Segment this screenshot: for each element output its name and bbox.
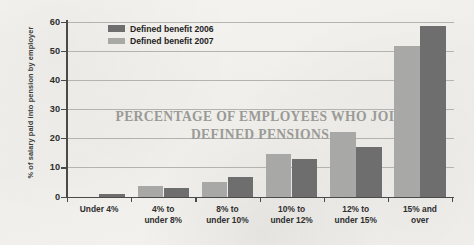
bar — [394, 46, 420, 196]
bar — [164, 188, 190, 197]
bar — [266, 154, 292, 196]
y-axis-tick-mark — [61, 138, 67, 139]
y-axis-tick-labels: 6050403020100 — [38, 0, 60, 245]
category-label-line-1: 12% to — [342, 204, 369, 214]
y-axis-tick-mark — [61, 197, 67, 198]
bar — [420, 26, 446, 197]
y-axis-tick-label: 30 — [38, 104, 60, 114]
legend-item-label: Defined benefit 2006 — [130, 24, 214, 34]
y-axis-tick-label: 40 — [38, 75, 60, 85]
category-label-line-2: under 15% — [324, 215, 388, 226]
x-axis-category-label: 15% andover — [388, 204, 452, 225]
legend-item-label: Defined benefit 2007 — [130, 36, 214, 46]
legend-item: Defined benefit 2006 — [108, 23, 214, 34]
x-axis-tick-mark — [131, 197, 132, 202]
category-label-line-2: under 10% — [195, 215, 259, 226]
y-axis-tick-label: 0 — [38, 192, 60, 202]
bar — [330, 132, 356, 196]
x-axis-tick-mark — [260, 197, 261, 202]
category-label-line-2: under 8% — [131, 215, 195, 226]
x-axis-category-label: 8% tounder 10% — [195, 204, 259, 225]
category-label-line-1: Under 4% — [80, 204, 119, 214]
category-label-line-1: 15% and — [403, 204, 437, 214]
category-label-line-2: under 12% — [260, 215, 324, 226]
category-label-line-2: over — [388, 215, 452, 226]
y-axis-title: % of salary paid into pension by employe… — [26, 3, 35, 203]
y-axis-tick-label: 20 — [38, 133, 60, 143]
bar — [202, 182, 228, 197]
category-label-line-1: 4% to — [152, 204, 174, 214]
x-axis-category-label: Under 4% — [67, 204, 131, 215]
y-axis-tick-mark — [61, 51, 67, 52]
bar — [356, 147, 382, 197]
category-label-line-1: 8% to — [216, 204, 238, 214]
x-axis-tick-mark — [324, 197, 325, 202]
x-axis-category-label: 10% tounder 12% — [260, 204, 324, 225]
x-axis-tick-mark — [388, 197, 389, 202]
legend-color-swatch — [108, 25, 125, 32]
plot-area: PERCENTAGE OF EMPLOYEES WHO JOIN DEFINED… — [0, 0, 474, 245]
y-axis-tick-label: 50 — [38, 46, 60, 56]
y-axis-tick-mark — [61, 109, 67, 110]
x-axis-tick-mark — [67, 197, 68, 202]
chart-legend: Defined benefit 2006Defined benefit 2007 — [108, 23, 214, 48]
bar — [138, 186, 164, 196]
bar — [292, 159, 318, 197]
x-axis-tick-mark — [452, 197, 453, 202]
y-axis-tick-mark — [61, 167, 67, 168]
legend-color-swatch — [108, 38, 125, 45]
x-axis-category-label: 4% tounder 8% — [131, 204, 195, 225]
legend-item: Defined benefit 2007 — [108, 36, 214, 47]
chart-container: PERCENTAGE OF EMPLOYEES WHO JOIN DEFINED… — [0, 0, 474, 245]
y-axis-tick-label: 10 — [38, 162, 60, 172]
y-axis-tick-label: 60 — [38, 17, 60, 27]
x-axis-tick-mark — [195, 197, 196, 202]
y-axis-tick-mark — [61, 80, 67, 81]
y-axis-tick-mark — [61, 22, 67, 23]
x-axis-category-label: 12% tounder 15% — [324, 204, 388, 225]
category-label-line-1: 10% to — [278, 204, 305, 214]
bar — [228, 177, 254, 197]
